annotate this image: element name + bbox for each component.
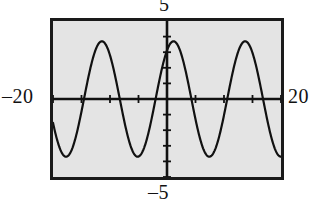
plot-svg [53, 21, 281, 177]
x-axis-max-label: 20 [288, 86, 309, 106]
y-axis-min-label: –5 [148, 182, 169, 202]
y-axis-max-label: 5 [159, 0, 170, 14]
x-axis-min-label: –20 [2, 86, 34, 106]
calculator-screen [50, 18, 284, 180]
figure-root: 5 –5 –20 20 [0, 0, 318, 210]
